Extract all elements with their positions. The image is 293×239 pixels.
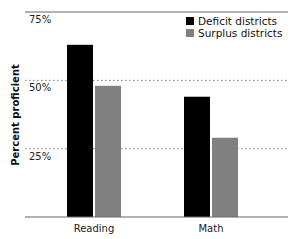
x-category-labels: ReadingMath: [74, 223, 224, 234]
legend-label: Deficit districts: [198, 15, 277, 27]
bar-chart: 25%50%75% ReadingMath Percent proficient…: [0, 0, 293, 239]
bars: [67, 45, 238, 217]
x-category-label: Math: [198, 223, 223, 234]
legend: Deficit districtsSurplus districts: [186, 15, 282, 39]
x-category-label: Reading: [74, 223, 115, 234]
y-tick-label: 50%: [29, 82, 51, 93]
gridlines: [25, 80, 288, 148]
y-tick-labels: 25%50%75%: [29, 14, 51, 162]
bar: [184, 97, 210, 217]
y-axis-label: Percent proficient: [10, 64, 21, 166]
legend-swatch: [186, 17, 194, 25]
bar: [95, 86, 121, 217]
legend-label: Surplus districts: [198, 27, 282, 39]
y-tick-label: 75%: [29, 14, 51, 25]
bar: [67, 45, 93, 217]
legend-swatch: [186, 29, 194, 37]
y-tick-label: 25%: [29, 151, 51, 162]
bar: [212, 138, 238, 217]
